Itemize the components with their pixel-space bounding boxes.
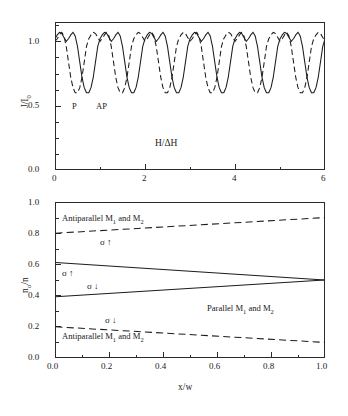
top-panel-curves — [0, 0, 348, 190]
anno-sub2: 2 — [140, 218, 143, 225]
anno-parallel: Parallel M1 and M2 — [207, 303, 274, 315]
anno-text: Antiparallel M — [62, 331, 113, 341]
top-panel: 0.0 0.5 1.0 0 2 4 6 J/I0 H/ΔH P AP — [0, 0, 348, 190]
line-parallel-spin-up — [56, 263, 325, 281]
spin-up-antiparallel: σ ↑ — [100, 237, 112, 247]
spin-up-parallel: σ ↑ — [62, 268, 74, 278]
anno-mid: and M — [116, 213, 140, 223]
anno-text: Parallel M — [207, 303, 243, 313]
anno-mid: and M — [116, 331, 140, 341]
spin-down-parallel: σ ↓ — [87, 281, 99, 291]
anno-text: Antiparallel M — [62, 213, 113, 223]
anno-antiparallel-bottom: Antiparallel M1 and M2 — [62, 331, 144, 343]
bottom-panel-curves — [0, 190, 348, 416]
figure-container: 0.0 0.5 1.0 0 2 4 6 J/I0 H/ΔH P AP — [0, 0, 348, 416]
bottom-panel: 0.0 0.2 0.4 0.6 0.8 1.0 0.0 0.2 0.4 0.6 … — [0, 190, 348, 416]
anno-mid: and M — [246, 303, 270, 313]
anno-sub2: 2 — [271, 308, 274, 315]
curve-p-solid — [55, 32, 325, 92]
anno-sub2: 2 — [140, 336, 143, 343]
spin-down-antiparallel: σ ↓ — [105, 315, 117, 325]
anno-antiparallel-top: Antiparallel M1 and M2 — [62, 213, 144, 225]
